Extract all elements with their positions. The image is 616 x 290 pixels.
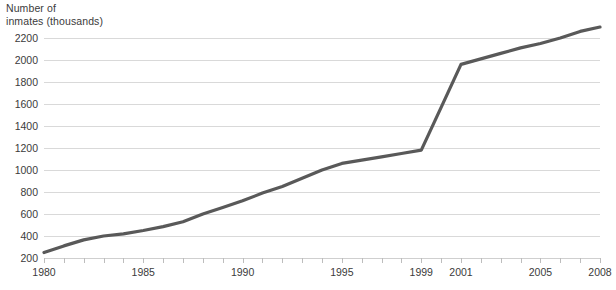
x-axis-tick-mark [203,258,204,263]
x-axis-tick-label: 1985 [132,266,155,278]
x-axis-tick-mark [421,258,422,263]
series-line-inmates [44,27,600,253]
x-axis-tick-mark [600,258,601,263]
x-axis-tick-mark [481,258,482,263]
x-axis-tick-label: 1995 [330,266,353,278]
x-axis-tick-mark [64,258,65,263]
y-axis-tick-label: 600 [0,208,38,220]
x-axis-tick-mark [282,258,283,263]
x-axis-tick-mark [560,258,561,263]
x-axis-tick-mark [362,258,363,263]
x-axis-tick-mark [123,258,124,263]
plot-area [44,38,600,258]
x-axis-tick-label: 1999 [410,266,433,278]
x-axis-tick-label: 1990 [231,266,254,278]
y-axis-tick-label: 1800 [0,76,38,88]
x-axis-tick-mark [322,258,323,263]
y-axis-tick-label: 2200 [0,32,38,44]
x-axis-tick-mark [84,258,85,263]
x-axis-tick-mark [342,258,343,263]
y-axis-tick-label: 2000 [0,54,38,66]
line-chart: Number of inmates (thousands) 2200200018… [0,0,616,290]
y-axis-tick-label: 400 [0,230,38,242]
x-axis-tick-label: 1980 [32,266,55,278]
x-axis-tick-label: 2005 [529,266,552,278]
x-axis-tick-mark [382,258,383,263]
x-axis-tick-mark [262,258,263,263]
x-axis-tick-mark [243,258,244,263]
x-axis-tick-mark [521,258,522,263]
x-axis-tick-mark [143,258,144,263]
x-axis-tick-mark [223,258,224,263]
y-axis-tick-labels: 2200200018001600140012001000800600400200 [0,38,40,258]
x-axis-tick-mark [183,258,184,263]
y-axis-tick-label: 1200 [0,142,38,154]
x-axis-tick-label: 2001 [449,266,472,278]
x-axis-tick-mark [104,258,105,263]
x-axis-tick-mark [580,258,581,263]
x-axis-tick-marks [44,258,600,264]
x-axis-tick-mark [302,258,303,263]
series-line-layer [44,38,600,258]
x-axis-tick-label: 2008 [588,266,611,278]
y-axis-tick-label: 200 [0,252,38,264]
x-axis-tick-mark [163,258,164,263]
x-axis-tick-mark [44,258,45,263]
y-axis-tick-label: 800 [0,186,38,198]
x-axis-tick-mark [540,258,541,263]
y-axis-tick-label: 1000 [0,164,38,176]
x-axis-tick-mark [461,258,462,263]
y-axis-title: Number of inmates (thousands) [6,2,103,28]
y-axis-tick-label: 1600 [0,98,38,110]
x-axis-tick-mark [401,258,402,263]
x-axis-tick-labels: 19801985199019951999200120052008 [0,266,616,286]
y-axis-tick-label: 1400 [0,120,38,132]
x-axis-tick-mark [441,258,442,263]
x-axis-tick-mark [501,258,502,263]
